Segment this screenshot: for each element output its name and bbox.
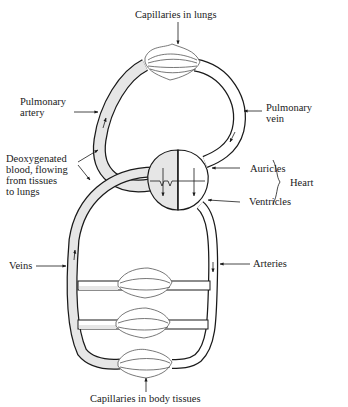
label-veins: Veins [9,260,32,271]
lung-capillaries [145,44,200,80]
label-deoxy-line4: to lungs [6,186,68,197]
label-ventricles: Ventricles [249,196,291,207]
label-arteries: Arteries [253,258,287,269]
label-capillaries-lungs: Capillaries in lungs [135,9,217,20]
label-pulmonary-artery-line2: artery [20,107,66,118]
circulation-diagram [0,0,348,407]
label-deoxy-line2: blood, flowing [6,164,68,175]
pulmonary-vein-vessel [195,65,239,162]
label-deoxy-line3: from tissues [6,175,68,186]
label-pulmonary-vein: Pulmonary vein [266,102,312,124]
label-pulmonary-artery-line1: Pulmonary [20,96,66,107]
heart [148,150,208,210]
body-capillaries [116,268,172,378]
label-deoxygenated-blood: Deoxygenated blood, flowing from tissues… [6,153,68,197]
label-pulmonary-vein-line1: Pulmonary [266,102,312,113]
label-deoxy-line1: Deoxygenated [6,153,68,164]
label-pulmonary-vein-line2: vein [266,113,312,124]
label-capillaries-body: Capillaries in body tissues [90,393,201,404]
label-pulmonary-artery: Pulmonary artery [20,96,66,118]
label-heart: Heart [290,177,313,188]
label-auricles: Auricles [250,163,286,174]
